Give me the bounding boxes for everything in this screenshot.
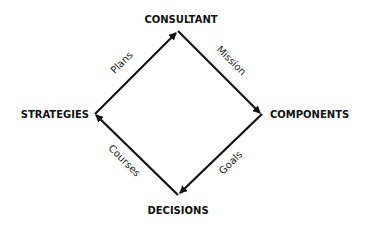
edge-mission: [178, 31, 260, 113]
edge-label-plans: Plans: [108, 49, 135, 76]
cycle-diagram: CONSULTANT COMPONENTS DECISIONS STRATEGI…: [0, 0, 373, 226]
node-components: COMPONENTS: [270, 109, 349, 120]
edge-courses: [96, 115, 178, 195]
edge-plans: [95, 33, 176, 114]
node-strategies: STRATEGIES: [21, 109, 89, 120]
node-consultant: CONSULTANT: [144, 14, 217, 25]
node-decisions: DECISIONS: [147, 205, 208, 216]
edge-label-courses: Courses: [106, 142, 142, 178]
edge-goals: [180, 114, 262, 193]
